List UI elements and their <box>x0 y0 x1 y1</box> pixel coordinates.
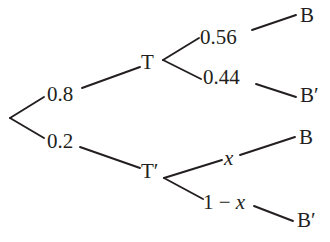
edge-label-prob-b-given-t-prime: x <box>224 148 233 169</box>
branch-tprime-to-prob-bprime <box>164 178 203 199</box>
probability-tree-diagram: T T′ B B′ B B′ 0.8 0.2 0.56 0.44 x 1 − x <box>0 0 330 242</box>
edge-label-prob-b-prime-given-t-prime: 1 − x <box>203 192 245 213</box>
edge-label-prob-t: 0.8 <box>47 84 73 105</box>
branch-tprime-to-prob-b <box>164 160 222 178</box>
node-b-prime-top: B′ <box>300 85 319 106</box>
branch-prob-b-to-node-b-top <box>252 15 296 30</box>
one-minus-prefix: 1 − <box>203 190 236 214</box>
branch-root-to-prob-t <box>10 97 44 118</box>
node-b-bottom: B <box>299 127 313 148</box>
edge-label-prob-b-prime-given-t: 0.44 <box>203 67 240 88</box>
branch-prob-tprime-to-node-tprime <box>80 147 140 168</box>
branch-prob-b-to-node-b-bottom <box>240 137 295 155</box>
node-b-top: B <box>300 5 314 26</box>
edge-label-prob-b-given-t: 0.56 <box>200 27 237 48</box>
variable-x: x <box>236 190 245 214</box>
branch-t-to-prob-b <box>163 38 199 60</box>
branch-prob-bprime-to-node-bprime-top <box>256 84 296 97</box>
branch-prob-bprime-to-node-bprime-bottom <box>254 206 293 221</box>
edge-label-prob-t-prime: 0.2 <box>47 131 73 152</box>
node-b-prime-bottom: B′ <box>297 210 316 231</box>
branch-t-to-prob-bprime <box>163 60 201 79</box>
tree-branch-lines <box>0 0 330 242</box>
branch-prob-t-to-node-t <box>82 67 140 88</box>
branch-root-to-prob-tprime <box>10 118 44 138</box>
node-t-prime: T′ <box>141 161 158 182</box>
node-t: T <box>141 52 154 73</box>
